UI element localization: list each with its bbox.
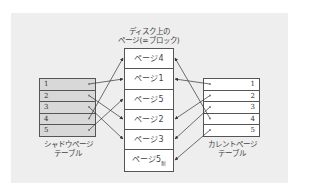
shadow-label-line-1: シャドウページ xyxy=(30,140,106,149)
current-table-label: カレントページ テーブル xyxy=(194,140,270,158)
current-table-row: 3 xyxy=(204,102,259,114)
current-page-table: 1 2 3 4 5 xyxy=(203,78,260,137)
current-label-line-1: カレントページ xyxy=(194,140,270,149)
disk-page-stack: ページ4 ページ1 ページ5 ページ2 ページ3 ページ5新 xyxy=(124,48,174,172)
disk-page: ページ5 xyxy=(125,90,173,110)
disk-page-new: ページ5新 xyxy=(125,150,173,170)
title-line-2: ページ(=ブロック) xyxy=(118,36,180,45)
current-table-row: 2 xyxy=(204,91,259,103)
title-line-1: ディスク上の xyxy=(118,27,180,36)
disk-page: ページ4 xyxy=(125,49,173,69)
disk-page: ページ3 xyxy=(125,130,173,150)
disk-page: ページ2 xyxy=(125,110,173,130)
current-label-line-2: テーブル xyxy=(194,149,270,158)
shadow-label-line-2: テーブル xyxy=(30,149,106,158)
current-table-row: 5 xyxy=(204,125,259,137)
current-table-row: 4 xyxy=(204,114,259,126)
shadow-table-row: 2 xyxy=(40,91,95,103)
current-table-row: 1 xyxy=(204,79,259,91)
shadow-table-row: 5 xyxy=(40,125,95,137)
shadow-page-table: 1 2 3 4 5 xyxy=(39,78,96,137)
shadow-table-row: 1 xyxy=(40,79,95,91)
shadow-table-row: 3 xyxy=(40,102,95,114)
disk-page: ページ1 xyxy=(125,69,173,89)
shadow-table-label: シャドウページ テーブル xyxy=(30,140,106,158)
shadow-table-row: 4 xyxy=(40,114,95,126)
disk-pages-title: ディスク上の ページ(=ブロック) xyxy=(118,27,180,45)
